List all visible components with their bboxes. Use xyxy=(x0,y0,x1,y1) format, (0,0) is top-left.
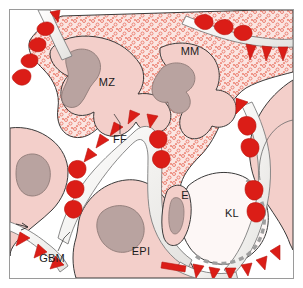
label-kl: KL xyxy=(225,207,239,219)
label-ff: FF xyxy=(113,133,127,145)
label-gbm: GBM xyxy=(39,252,65,264)
figure-frame: MZ MM FF E KL EPI GBM xyxy=(9,9,294,279)
figure-root: MZ MM FF E KL EPI GBM xyxy=(0,0,303,288)
label-epi: EPI xyxy=(132,245,150,257)
label-mm: MM xyxy=(181,45,200,57)
glomerulus-diagram: MZ MM FF E KL EPI GBM xyxy=(10,10,293,278)
label-e: E xyxy=(181,189,189,201)
label-mz: MZ xyxy=(99,76,115,88)
epithelial-nucleus-left xyxy=(16,154,50,196)
